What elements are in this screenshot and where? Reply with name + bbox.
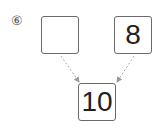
connector-arrows [0,0,164,134]
arrow-right-to-bottom [117,56,134,82]
arrow-left-to-bottom [61,56,79,82]
